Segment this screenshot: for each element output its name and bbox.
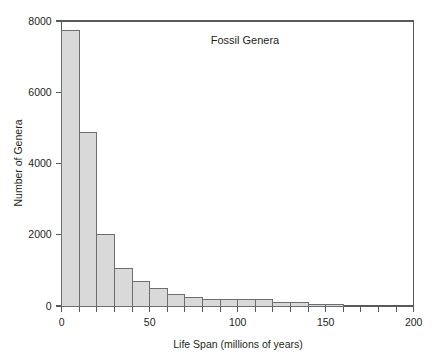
x-tick-label: 100 <box>229 316 247 328</box>
histogram-bar <box>115 269 133 306</box>
y-tick-label: 8000 <box>28 15 52 27</box>
histogram-bar <box>291 302 309 306</box>
y-axis-tick-labels: 02000400060008000 <box>28 15 52 312</box>
histogram-bar <box>203 299 221 306</box>
x-axis-tick-labels: 050100150200 <box>59 316 423 328</box>
chart-figure: 050100150200 02000400060008000 Fossil Ge… <box>0 0 436 362</box>
histogram-chart: 050100150200 02000400060008000 Fossil Ge… <box>0 0 436 362</box>
histogram-bar <box>62 30 80 306</box>
y-tick-label: 4000 <box>28 157 52 169</box>
chart-title: Fossil Genera <box>211 34 280 46</box>
histogram-bar <box>326 304 344 306</box>
histogram-bar <box>238 300 256 306</box>
x-axis-ticks <box>62 306 414 312</box>
x-tick-label: 50 <box>144 316 156 328</box>
histogram-bar <box>308 304 326 306</box>
x-tick-label: 200 <box>405 316 423 328</box>
histogram-bar <box>273 302 291 306</box>
histogram-bar <box>97 235 115 306</box>
histogram-bar <box>255 300 273 306</box>
histogram-bar <box>185 298 203 306</box>
y-axis-title: Number of Genera <box>12 119 24 206</box>
y-axis-ticks <box>56 21 62 306</box>
histogram-bar <box>79 133 97 306</box>
x-tick-label: 150 <box>317 316 335 328</box>
x-tick-label: 0 <box>59 316 65 328</box>
histogram-bar <box>132 281 150 306</box>
histogram-bar <box>150 288 168 306</box>
y-tick-label: 6000 <box>28 86 52 98</box>
bar-series <box>62 30 344 306</box>
y-tick-label: 0 <box>46 300 52 312</box>
histogram-bar <box>220 300 238 306</box>
histogram-bar <box>167 294 185 306</box>
x-axis-title: Life Span (millions of years) <box>173 338 303 350</box>
y-tick-label: 2000 <box>28 228 52 240</box>
